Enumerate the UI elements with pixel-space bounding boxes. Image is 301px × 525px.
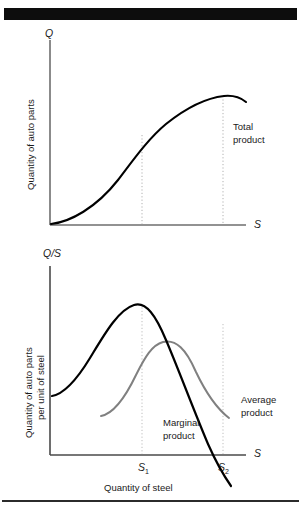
total-product-curve [51, 96, 246, 224]
total-product-label-line2: product [233, 134, 265, 146]
bottom-y-axis-label-line2: per unit of steel [35, 355, 47, 420]
total-product-label-line1: Total [233, 121, 253, 133]
bottom-divider [2, 500, 299, 502]
average-product-label-line2: product [241, 407, 273, 419]
top-y-axis-label: Quantity of auto parts [25, 99, 37, 190]
bottom-y-axis-label-line1: Quantity of auto parts [23, 347, 35, 438]
bottom-y-axis-symbol: Q/S [43, 248, 61, 260]
figure-container: Q Quantity of auto parts S Total product… [0, 0, 301, 525]
top-x-axis-symbol: S [254, 219, 261, 231]
bottom-x-axis-label: Quantity of steel [104, 482, 173, 494]
bottom-x-axis-symbol: S [254, 448, 261, 460]
top-y-axis-symbol: Q [45, 28, 53, 40]
average-product-curve [101, 341, 229, 418]
total-product-chart [0, 22, 301, 237]
top-black-bar [4, 8, 297, 20]
marginal-product-label-line2: product [163, 430, 195, 442]
marginal-product-label-line1: Marginal [163, 417, 199, 429]
average-product-label-line1: Average [241, 394, 276, 406]
